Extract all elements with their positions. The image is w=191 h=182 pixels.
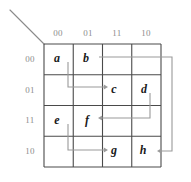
arrow-d-to-f-head	[98, 115, 102, 120]
kmap-cell-c: c	[111, 83, 116, 95]
row-header-11-2: 11	[25, 116, 34, 125]
column-header-00-0: 00	[53, 29, 63, 38]
kmap-cell-h: h	[140, 144, 147, 156]
column-header-11-2: 11	[112, 29, 121, 38]
row-header-00-0: 00	[25, 55, 35, 64]
corner-diagonal-line	[10, 10, 44, 44]
kmap-cell-e: e	[54, 114, 59, 126]
column-header-10-3: 10	[141, 29, 151, 38]
kmap-cell-d: d	[141, 83, 147, 95]
karnaugh-map-diagram: 00011110 00011110 abcdefgh	[0, 0, 191, 182]
row-header-10-3: 10	[25, 147, 35, 156]
kmap-cell-f: f	[85, 114, 89, 126]
arrow-b-to-h-head	[157, 148, 161, 153]
column-header-01-1: 01	[83, 29, 93, 38]
arrow-a-to-c-head	[104, 84, 108, 89]
arrow-e-to-g-head	[104, 147, 108, 152]
arrow-d-to-f	[98, 93, 150, 121]
kmap-cell-a: a	[54, 52, 60, 64]
row-header-01-1: 01	[25, 86, 35, 95]
kmap-cell-b: b	[83, 52, 89, 64]
kmap-cell-g: g	[111, 144, 117, 156]
